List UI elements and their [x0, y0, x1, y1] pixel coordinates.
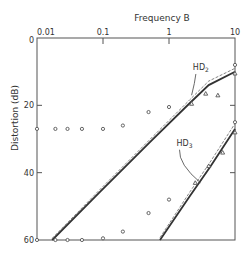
hd2-label: HD2 [193, 63, 209, 73]
circle-point [167, 105, 170, 108]
circle-point [233, 63, 236, 66]
hd3-leader [179, 150, 200, 183]
y-tick-label: 20 [24, 101, 34, 110]
circle-point [35, 238, 38, 241]
x-tick-label: 0.1 [97, 28, 110, 37]
y-tick-label: 0 [29, 36, 34, 45]
circle-point [80, 127, 83, 130]
hd2-leader [192, 74, 196, 95]
series-labels: HD2HD3 [177, 63, 210, 183]
data-points [35, 63, 237, 241]
x-tick-label: 0.01 [37, 28, 55, 37]
circle-point [66, 238, 69, 241]
circle-point [101, 127, 104, 130]
circle-point [35, 127, 38, 130]
x-tick-label: 1 [166, 28, 171, 37]
circle-point [167, 198, 170, 201]
circle-point [80, 238, 83, 241]
y-axis-title: Distortion (dB) [10, 85, 20, 151]
circle-point [121, 230, 124, 233]
distortion-chart: 0.010.1110 0204060 Frequency B Distortio… [0, 0, 248, 257]
triangle-point [207, 164, 211, 168]
x-tick-label: 10 [230, 28, 240, 37]
y-tick-label: 60 [24, 236, 34, 245]
circle-point [101, 237, 104, 240]
circle-point [233, 121, 236, 124]
x-axis-title: Frequency B [134, 13, 190, 23]
circle-point [147, 110, 150, 113]
circle-point [54, 238, 57, 241]
circle-point [147, 211, 150, 214]
hd3-label: HD3 [177, 139, 193, 149]
circle-point [54, 127, 57, 130]
y-tick-label: 40 [24, 169, 34, 178]
triangle-point [216, 93, 220, 97]
triangle-point [204, 92, 208, 96]
circle-point [66, 127, 69, 130]
triangle-point [193, 181, 197, 185]
hd2-curve [52, 72, 235, 240]
circle-point [121, 124, 124, 127]
x-axis: 0.010.1110 [37, 28, 240, 44]
